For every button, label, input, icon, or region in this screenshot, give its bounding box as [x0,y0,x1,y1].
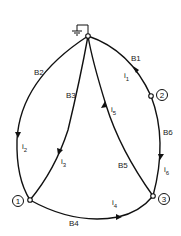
svg-text:2: 2 [160,91,165,100]
current-label-i4: i4 [112,198,118,209]
svg-text:3: 3 [162,195,167,204]
node-1 [28,198,33,203]
current-label-i1: i1 [124,71,130,82]
arrow-icon [133,66,139,73]
branch-label-b1: B1 [131,54,141,63]
branch-label-b4: B4 [69,219,79,228]
ground-icon [72,25,88,36]
node-3 [151,194,156,199]
arrow-icon [101,101,107,108]
current-label-i3: i3 [61,157,67,168]
branch-b4: B4 i4 [30,196,153,228]
current-label-i6: i6 [164,165,170,176]
arrow-icon [57,148,63,155]
node-label-3: 3 [159,194,170,205]
node-2 [149,94,154,99]
branch-label-b6: B6 [163,128,173,137]
node-0 [86,34,91,39]
node-label-1: 1 [13,196,24,207]
branch-label-b2: B2 [34,68,44,77]
arrow-icon [15,132,21,138]
current-label-i5: i5 [111,105,117,116]
current-label-i2: i2 [22,142,28,153]
branch-label-b3: B3 [66,91,76,100]
branch-b5: B5 i5 [88,36,153,196]
branch-b2: B2 i2 [15,36,88,200]
branch-b1: B1 i1 [88,36,151,96]
node-label-2: 2 [157,90,168,101]
branch-b3: B3 i3 [30,36,88,200]
arrow-icon [116,214,122,220]
circuit-graph-diagram: B1 i1 B6 i6 B2 i2 B3 i3 B5 i5 B4 i4 [0,0,181,236]
svg-text:1: 1 [16,197,21,206]
branch-b6: B6 i6 [151,96,173,196]
branch-label-b5: B5 [118,161,128,170]
